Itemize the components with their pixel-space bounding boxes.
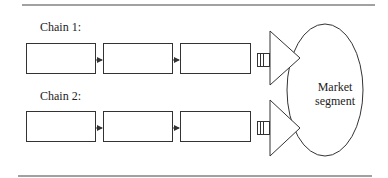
chain-1-box-2: [104, 44, 173, 74]
chain-2: [27, 100, 301, 156]
chain-2-connector-icon: [258, 122, 270, 135]
market-segment-line-1: Market: [300, 80, 370, 94]
chain-2-label: Chain 2:: [40, 89, 81, 104]
chain-1: [27, 31, 301, 85]
chain-2-box-1: [27, 112, 96, 142]
chain-2-box-3: [181, 112, 251, 142]
chain-1-box-1: [27, 44, 96, 74]
chain-1-label: Chain 1:: [40, 20, 81, 35]
market-segment-label: Market segment: [300, 80, 370, 108]
chain-1-connector-icon: [258, 54, 270, 67]
chain-1-box-3: [181, 44, 251, 74]
chain-2-box-2: [104, 112, 173, 142]
market-segment-line-2: segment: [300, 94, 370, 108]
